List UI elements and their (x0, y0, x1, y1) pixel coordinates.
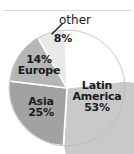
other-percent-value: 8% (48, 33, 78, 44)
pie-label-europe: 14% Europe (12, 54, 66, 76)
pie-label-other-percent: 8% (48, 33, 78, 44)
latin-america-percent-value: 53% (70, 102, 124, 113)
europe-name-value: Europe (12, 65, 66, 76)
pie-label-other: other (45, 13, 105, 27)
pie-label-asia: Asia 25% (19, 96, 63, 118)
pie-label-latin-america: Latin America 53% (70, 80, 124, 114)
pie-chart-figure: other 8% 14% Europe Asia 25% Latin Ameri… (0, 0, 134, 154)
asia-percent-value: 25% (19, 107, 63, 118)
